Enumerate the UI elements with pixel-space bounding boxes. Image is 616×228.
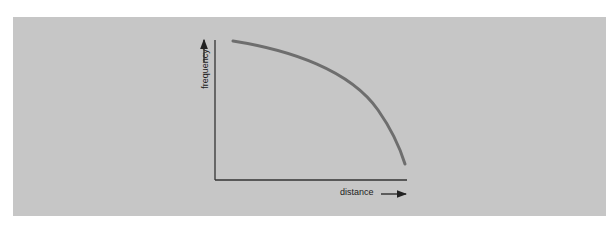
frequency-curve bbox=[233, 41, 405, 164]
x-axis-label: distance bbox=[340, 187, 374, 197]
chart-graphics bbox=[0, 0, 616, 228]
y-axis-label: frequency bbox=[200, 34, 210, 104]
